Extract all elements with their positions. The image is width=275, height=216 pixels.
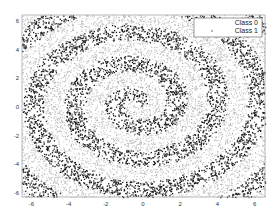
x-axis-ticks: -6-4-20246 bbox=[29, 201, 257, 207]
legend-label-class1: Class 1 bbox=[235, 27, 258, 34]
legend-marker-class1 bbox=[211, 30, 212, 31]
legend-label-class0: Class 0 bbox=[235, 19, 258, 26]
y-tick-label: -2 bbox=[14, 133, 20, 139]
x-tick-label: 4 bbox=[216, 201, 220, 207]
scatter-points bbox=[22, 15, 266, 198]
y-tick-label: 2 bbox=[16, 75, 20, 81]
y-tick-label: -6 bbox=[14, 190, 20, 196]
legend: Class 0 Class 1 bbox=[194, 18, 262, 37]
scatter-chart: -6-4-20246 -6-4-20246 Class 0 Class 1 bbox=[0, 0, 275, 216]
x-tick-label: -4 bbox=[66, 201, 72, 207]
y-tick-label: 4 bbox=[16, 47, 20, 53]
y-axis-ticks: -6-4-20246 bbox=[14, 18, 20, 196]
y-tick-label: 0 bbox=[16, 104, 20, 110]
x-tick-label: -2 bbox=[103, 201, 109, 207]
y-tick-label: 6 bbox=[16, 18, 20, 24]
x-tick-label: -6 bbox=[29, 201, 35, 207]
x-tick-label: 2 bbox=[179, 201, 183, 207]
x-tick-label: 0 bbox=[141, 201, 145, 207]
x-tick-label: 6 bbox=[253, 201, 257, 207]
y-tick-label: -4 bbox=[14, 161, 20, 167]
